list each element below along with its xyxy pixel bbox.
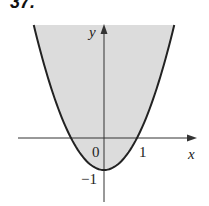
y-tick-label: −1 <box>81 171 97 187</box>
x-tick-label: 1 <box>139 144 147 160</box>
chart: 37. x y 01−1 <box>0 0 209 206</box>
problem-number: 37. <box>10 0 35 12</box>
x-axis-label: x <box>187 146 195 162</box>
x-axis-arrow-icon <box>187 135 197 142</box>
y-axis-label: y <box>87 24 96 40</box>
x-tick-label: 0 <box>92 144 100 160</box>
